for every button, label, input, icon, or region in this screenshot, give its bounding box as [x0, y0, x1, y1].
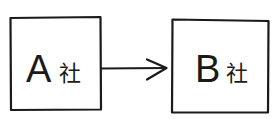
node-a-box: [11, 17, 102, 110]
arrow-head-icon: [147, 60, 167, 80]
node-b-suffix: 社: [226, 61, 248, 86]
node-a-letter: A: [26, 48, 52, 90]
diagram-canvas: A 社 B 社: [0, 0, 277, 119]
node-a-suffix: 社: [59, 61, 81, 86]
node-b-letter: B: [195, 48, 220, 90]
edge-a-to-b: [101, 60, 167, 80]
arrow-line: [101, 68, 166, 69]
node-a: A 社: [11, 17, 102, 110]
node-b: B 社: [172, 20, 269, 113]
